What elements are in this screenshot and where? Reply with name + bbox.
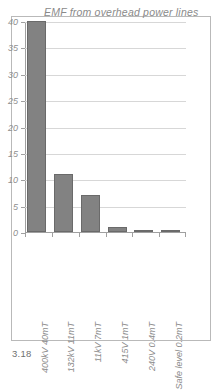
bar <box>134 230 153 232</box>
x-axis-label: Safe level 0.2mT <box>175 322 184 390</box>
gridline <box>25 180 186 181</box>
bar <box>81 195 100 232</box>
bar <box>161 230 180 232</box>
y-tick <box>21 180 25 181</box>
x-axis-label: 132kV 11mT <box>67 322 76 372</box>
y-tick-label: 30 <box>8 70 18 80</box>
bar <box>54 174 73 232</box>
y-tick-label: 0 <box>13 228 18 238</box>
gridline <box>25 48 186 49</box>
x-axis-label: 11kV 7mT <box>94 322 103 362</box>
y-tick <box>21 22 25 23</box>
y-tick-label: 5 <box>13 202 18 212</box>
gridline <box>25 22 186 23</box>
gridline <box>25 128 186 129</box>
gridline <box>25 101 186 102</box>
x-axis-label: 400kV 40mT <box>41 322 50 373</box>
y-tick <box>21 128 25 129</box>
y-tick-label: 25 <box>8 96 18 106</box>
gridline <box>25 75 186 76</box>
figure-caption: 3.18 <box>12 348 32 359</box>
chart-title: EMF from overhead power lines <box>44 6 194 18</box>
y-tick <box>21 48 25 49</box>
y-tick-label: 20 <box>8 123 18 133</box>
y-tick <box>21 154 25 155</box>
bar <box>108 227 127 232</box>
y-tick <box>21 101 25 102</box>
y-tick-label: 35 <box>8 43 18 53</box>
x-axis-labels: 400kV 40mT132kV 11mT11kV 7mT415V 1mT240V… <box>25 236 186 324</box>
plot-area: 0510152025303540 <box>25 22 186 233</box>
y-tick-label: 40 <box>8 17 18 27</box>
gridline <box>25 207 186 208</box>
y-tick <box>21 207 25 208</box>
y-tick <box>21 75 25 76</box>
x-axis-label: 415V 1mT <box>121 322 130 364</box>
x-axis-label: 240V 0.4mT <box>148 322 157 371</box>
y-tick-label: 10 <box>8 175 18 185</box>
gridline <box>25 154 186 155</box>
bar <box>27 21 46 232</box>
y-tick-label: 15 <box>8 149 18 159</box>
